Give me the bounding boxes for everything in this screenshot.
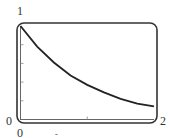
x-min-label: 0 (17, 126, 23, 138)
y-max-label: 1 (17, 4, 23, 18)
chart: 1 0 0 2 - (0, 0, 170, 138)
x-max-label: 2 (160, 114, 166, 128)
plot-frame (17, 23, 157, 123)
data-curve (21, 26, 155, 106)
x-marker-label: - (55, 130, 58, 138)
y-min-label: 0 (6, 114, 12, 128)
